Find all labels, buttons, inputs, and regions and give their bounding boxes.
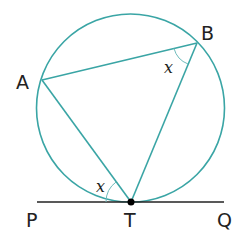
label-b: B	[201, 22, 214, 44]
angle-arc-b	[174, 49, 188, 65]
chord-ab	[42, 43, 197, 80]
alternate-segment-diagram: A B T P Q x x	[0, 0, 245, 245]
angle-label-b: x	[164, 58, 173, 77]
label-t: T	[123, 209, 136, 231]
label-p: P	[26, 209, 37, 231]
angle-label-t: x	[96, 177, 105, 196]
label-a: A	[16, 71, 29, 93]
label-q: Q	[217, 209, 232, 231]
chord-at	[42, 80, 131, 202]
point-t-dot	[128, 199, 135, 206]
circle	[37, 14, 225, 202]
